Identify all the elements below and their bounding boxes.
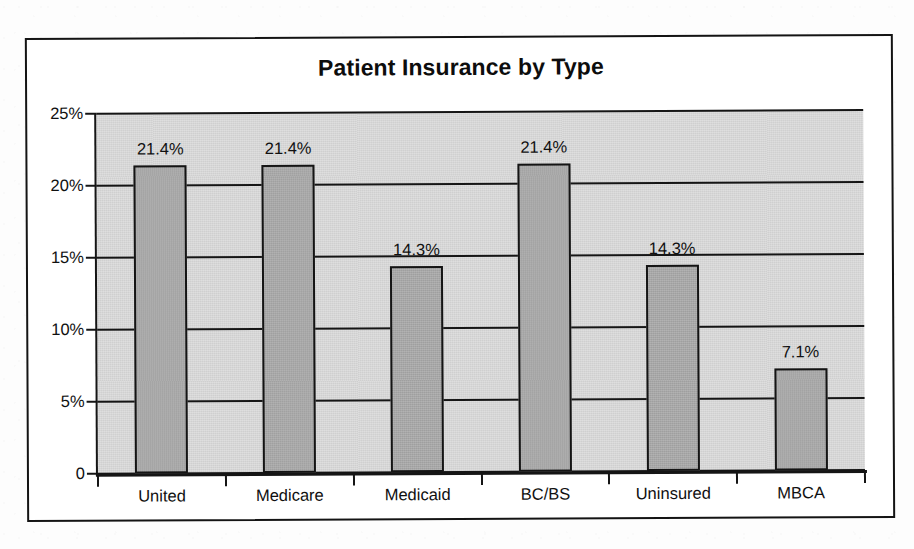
y-tick-mark-1 — [86, 185, 97, 187]
x-category-label-bc-bs: BC/BS — [482, 484, 610, 504]
y-tick-label-25pct: 25% — [29, 104, 83, 123]
bar-texture — [264, 167, 314, 471]
y-tick-mark-3 — [86, 329, 97, 331]
bar-texture — [648, 267, 698, 469]
x-tick-mark-0 — [97, 476, 99, 487]
y-tick-label-15pct: 15% — [30, 248, 84, 267]
x-category-label-medicaid: Medicaid — [354, 485, 482, 505]
x-category-label-mbca: MBCA — [737, 483, 865, 503]
y-tick-mark-2 — [86, 257, 97, 259]
bar-texture — [519, 165, 569, 469]
bars-group — [27, 36, 891, 40]
y-tick-label-5pct: 5% — [31, 392, 85, 411]
chart-title: Patient Insurance by Type — [27, 52, 895, 83]
bar-texture — [776, 370, 825, 468]
x-tick-mark-6 — [864, 472, 866, 483]
gridlines-group — [27, 36, 891, 40]
bar-value-label-uninsured: 14.3% — [622, 239, 722, 258]
figure-frame: Patient Insurance by Type 21.4%21.4%14.3… — [25, 34, 895, 522]
y-tick-mark-4 — [87, 401, 98, 403]
bar-medicaid — [390, 266, 444, 472]
y-tick-label-10pct: 10% — [30, 320, 84, 339]
bar-value-labels-group: 21.4%21.4%14.3%21.4%14.3%7.1% — [27, 36, 891, 40]
plot-area — [96, 110, 865, 474]
x-axis-category-labels-group: UnitedMedicareMedicaidBC/BSUninsuredMBCA — [27, 36, 891, 40]
bar-value-label-medicare: 21.4% — [238, 138, 338, 157]
x-category-label-uninsured: Uninsured — [609, 484, 737, 504]
x-category-label-united: United — [98, 486, 226, 506]
x-tick-mark-2 — [353, 475, 355, 486]
y-axis-tick-labels-group: 25%20%15%10%5%0 — [27, 114, 85, 474]
y-tick-mark-0 — [85, 113, 96, 115]
bar-texture — [392, 268, 442, 470]
bar-value-label-medicaid: 14.3% — [366, 240, 466, 259]
bar-mbca — [774, 368, 827, 470]
x-category-label-medicare: Medicare — [226, 486, 354, 506]
x-tick-mark-4 — [608, 473, 610, 484]
bar-value-label-united: 21.4% — [110, 139, 210, 158]
bar-value-label-bc-bs: 21.4% — [494, 137, 594, 156]
bar-value-label-mbca: 7.1% — [750, 342, 850, 361]
y-axis-ticks-group — [27, 36, 891, 40]
y-tick-label-20pct: 20% — [29, 176, 83, 195]
page-canvas: Patient Insurance by Type 21.4%21.4%14.3… — [0, 0, 914, 549]
bar-texture — [136, 167, 186, 471]
x-tick-mark-1 — [225, 475, 227, 486]
bar-united — [134, 165, 189, 473]
bar-bc-bs — [517, 163, 572, 471]
y-tick-label-0: 0 — [31, 464, 85, 483]
x-axis-ticks-group — [27, 36, 891, 40]
bar-uninsured — [646, 265, 700, 471]
bar-medicare — [262, 165, 317, 473]
plot-texture-overlay — [96, 110, 865, 474]
x-tick-mark-3 — [480, 474, 482, 485]
x-tick-mark-5 — [736, 473, 738, 484]
y-tick-mark-5 — [87, 473, 98, 475]
